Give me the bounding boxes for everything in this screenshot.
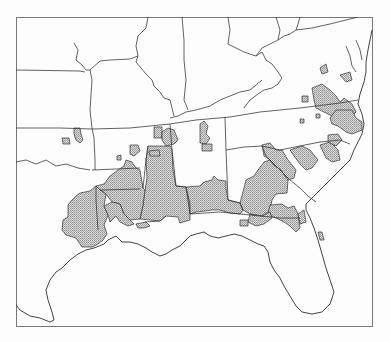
map-figure — [16, 17, 373, 327]
map-border-frame — [17, 18, 373, 327]
map-page — [0, 0, 390, 342]
southeast-us-map — [16, 17, 373, 327]
coastlines — [16, 30, 372, 322]
shaded-regions — [62, 64, 362, 247]
